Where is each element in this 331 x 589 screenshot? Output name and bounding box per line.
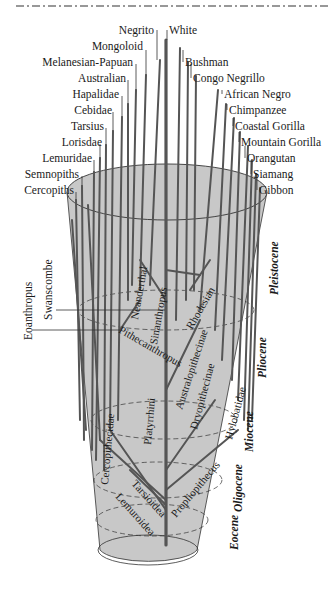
- primate-evolution-diagram: Negrito Mongoloid Melanesian-Papuan Aust…: [0, 0, 331, 589]
- leaf-label: African Negro: [224, 88, 291, 101]
- leaf-label: Melanesian-Papuan: [42, 56, 133, 69]
- leaf-label: Mongoloid: [92, 40, 143, 53]
- leaf-label: Siamang: [253, 168, 293, 181]
- leaf-label: Cercopiths: [24, 184, 74, 197]
- leaf-label: Chimpanzee: [229, 104, 286, 117]
- epoch-eocene: Eocene: [228, 515, 240, 551]
- swanscombe-label: Swanscombe: [42, 259, 54, 320]
- leaf-label: Bushman: [185, 56, 229, 68]
- leaf-label: Tarsius: [71, 120, 105, 132]
- epoch-miocene: Miocene: [243, 411, 255, 453]
- leaf-label: White: [169, 24, 197, 36]
- leaf-label: Semnopiths: [25, 168, 80, 181]
- leaf-label: Lorisdae: [62, 136, 102, 148]
- leaf-label: Orangutan: [247, 152, 296, 165]
- leaf-label: Negrito: [119, 24, 154, 37]
- epoch-pleistocene: Pleistocene: [268, 241, 280, 295]
- leaf-label: Congo Negrillo: [193, 72, 265, 85]
- leaf-label: Coastal Gorilla: [235, 120, 305, 132]
- leaf-label: Mountain Gorilla: [241, 136, 321, 148]
- leaf-label: Cebidae: [74, 104, 112, 116]
- eoanthropus-label: Eoanthropus: [22, 281, 35, 340]
- leaf-label: Australian: [78, 72, 126, 84]
- epoch-oligocene: Oligocene: [232, 464, 245, 512]
- epoch-pliocene: Pliocene: [256, 337, 268, 378]
- leaf-label: Hapalidae: [72, 88, 119, 101]
- leaf-label: Gibbon: [259, 184, 294, 196]
- leaf-label: Lemuridae: [42, 152, 92, 164]
